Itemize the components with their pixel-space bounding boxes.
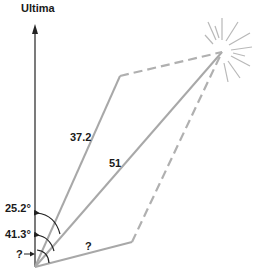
upper-side-label: 37.2 [70, 131, 91, 143]
vector-diagram: Ultima 37.2 51 ? 25.2° 41.3° ? [0, 0, 265, 274]
lower-angle-label: ? [16, 248, 23, 260]
diagonal-angle-label: 41.3° [5, 228, 31, 240]
diagonal-label: 51 [109, 157, 121, 169]
pointer-arrow-icon [30, 252, 35, 257]
diagonal-vector [35, 52, 222, 267]
upper-side-vector [35, 76, 120, 267]
axis-label: Ultima [21, 2, 56, 14]
lower-side-label: ? [85, 240, 92, 252]
upper-dashed-side [120, 52, 222, 76]
upper-angle-label: 25.2° [5, 202, 31, 214]
lower-side-vector [35, 242, 132, 267]
axis-arrow-icon [32, 24, 38, 34]
lower-dashed-side [132, 52, 222, 242]
